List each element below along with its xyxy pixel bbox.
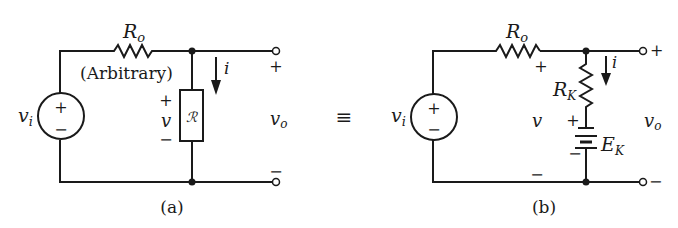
resistor-ro-a	[110, 45, 155, 57]
panel-a: + − ℛ i Ro (Arbitrary) vi + v − + vo − (…	[18, 20, 287, 217]
equivalence-symbol: ≡	[336, 105, 353, 129]
rk-label: RK	[552, 78, 577, 103]
vo-plus-a: +	[269, 57, 282, 76]
v-minus-a: −	[159, 130, 172, 149]
junction-a-top	[189, 48, 196, 55]
v-label-a: v	[161, 110, 171, 131]
ro-label-a: Ro	[122, 20, 145, 45]
caption-b: (b)	[532, 197, 556, 217]
current-label-a: i	[224, 58, 229, 78]
junction-b-top	[583, 48, 590, 55]
current-label-b: i	[612, 53, 617, 72]
current-arrow-a-head	[211, 80, 221, 95]
vo-label-b: vo	[644, 110, 661, 133]
source-minus-b: −	[427, 120, 440, 139]
vo-minus-a: −	[269, 162, 282, 181]
v-plus-b: +	[534, 57, 547, 76]
v-plus-a: +	[159, 91, 172, 110]
vi-label-b: vi	[391, 104, 406, 129]
battery-plus: +	[566, 111, 579, 130]
junction-a-bottom	[189, 179, 196, 186]
vi-label-a: vi	[18, 104, 33, 129]
source-plus-a: +	[54, 98, 67, 117]
terminal-b-top	[640, 48, 647, 55]
circuit-figure: + − ℛ i Ro (Arbitrary) vi + v − + vo − (…	[0, 0, 678, 228]
vo-label-a: vo	[270, 108, 287, 131]
vo-minus-b: −	[649, 172, 662, 191]
terminal-a-top	[273, 48, 280, 55]
source-minus-a: −	[54, 120, 67, 139]
vo-plus-b: +	[650, 41, 663, 60]
current-arrow-b-head	[601, 73, 611, 86]
element-r-label: ℛ	[186, 109, 198, 125]
resistor-ro-b	[493, 45, 540, 57]
resistor-rk	[580, 51, 592, 128]
caption-a: (a)	[160, 197, 183, 217]
arbitrary-note: (Arbitrary)	[80, 63, 173, 83]
panel-b: + − + − i Ro + v − vi RK + − EK vo (b)	[391, 20, 663, 217]
battery-minus: −	[568, 144, 581, 163]
v-minus-b: −	[530, 165, 543, 184]
terminal-b-bottom	[640, 179, 647, 186]
wire-b-top-left	[433, 51, 493, 94]
source-plus-b: +	[427, 99, 440, 118]
ek-label: EK	[600, 133, 625, 158]
ro-label-b: Ro	[505, 20, 528, 45]
v-label-b: v	[532, 110, 542, 131]
junction-b-bottom	[583, 179, 590, 186]
